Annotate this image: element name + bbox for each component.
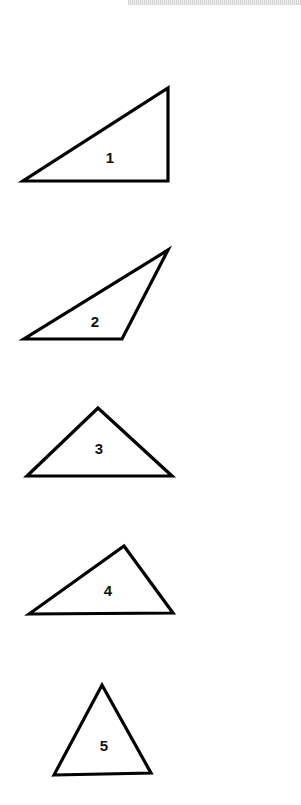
triangle-1-shape	[23, 88, 168, 181]
triangle-4-shape	[29, 546, 173, 614]
triangle-5: 5	[54, 685, 151, 775]
triangles-diagram: 1 2 3 4 5	[0, 0, 301, 805]
triangle-2: 2	[24, 250, 168, 339]
triangle-2-label: 2	[91, 313, 99, 330]
triangle-5-shape	[54, 685, 151, 775]
triangle-3: 3	[27, 408, 172, 476]
triangle-5-label: 5	[100, 737, 108, 754]
triangle-1: 1	[23, 88, 168, 181]
triangle-4-label: 4	[104, 582, 113, 599]
triangle-4: 4	[29, 546, 173, 614]
triangle-1-label: 1	[106, 149, 114, 166]
triangle-3-label: 3	[95, 440, 103, 457]
